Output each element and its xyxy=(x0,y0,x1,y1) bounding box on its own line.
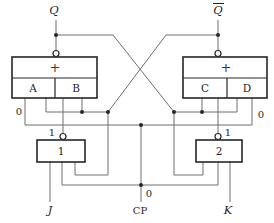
qbar-inverter-bubble-icon xyxy=(215,51,221,57)
cell-c-label: C xyxy=(201,82,209,94)
cell-a-label: A xyxy=(28,82,37,94)
k-input-label: K xyxy=(223,203,234,217)
cp-input-wire xyxy=(62,162,218,185)
gate1-output-value-label: 1 xyxy=(49,127,55,138)
right-bus-junction-dot xyxy=(200,110,204,114)
j-input-label: J xyxy=(46,203,54,217)
gate1-inverter-bubble-icon xyxy=(60,134,66,140)
right-input-bus xyxy=(174,98,237,112)
left-bus-junction-dot xyxy=(80,110,84,114)
right-zero-value-label: 0 xyxy=(258,109,264,120)
q-inverter-bubble-icon xyxy=(53,51,59,57)
right-feedback-junction-dot xyxy=(172,110,176,114)
q-cross-diagonal-wire xyxy=(113,35,174,112)
gate2-output-value-label: 1 xyxy=(225,127,231,138)
right-or-plus-label: + xyxy=(221,60,232,75)
left-zero-value-label: 0 xyxy=(16,106,22,117)
cp-line-junction-dot xyxy=(139,183,143,187)
junction-dots xyxy=(54,33,220,187)
clock-zero-value-label: 0 xyxy=(146,188,152,199)
cell-d-label: D xyxy=(243,82,251,94)
left-feedback-junction-dot xyxy=(106,110,110,114)
qbar-cross-diagonal-wire xyxy=(108,35,166,112)
wires xyxy=(25,20,252,202)
circuit-diagram: Q Q + + A B C D 0 0 1 1 1 2 0 J CP K xyxy=(0,0,274,223)
schematic-canvas: Q Q + + A B C D 0 0 1 1 1 2 0 J CP K xyxy=(0,0,274,223)
gate2-inverter-bubble-icon xyxy=(215,134,221,140)
left-input-bus xyxy=(46,98,108,112)
q-output-label: Q xyxy=(49,3,59,17)
qbar-junction-dot xyxy=(216,33,220,37)
gate2-number-label: 2 xyxy=(216,145,223,157)
cell-b-label: B xyxy=(72,82,80,94)
gate1-number-label: 1 xyxy=(58,145,65,157)
left-or-plus-label: + xyxy=(50,60,61,75)
qbar-output-label: Q xyxy=(213,3,223,17)
cp-input-label: CP xyxy=(133,205,148,216)
clock-riser-junction-dot xyxy=(139,123,143,127)
q-junction-dot xyxy=(54,33,58,37)
